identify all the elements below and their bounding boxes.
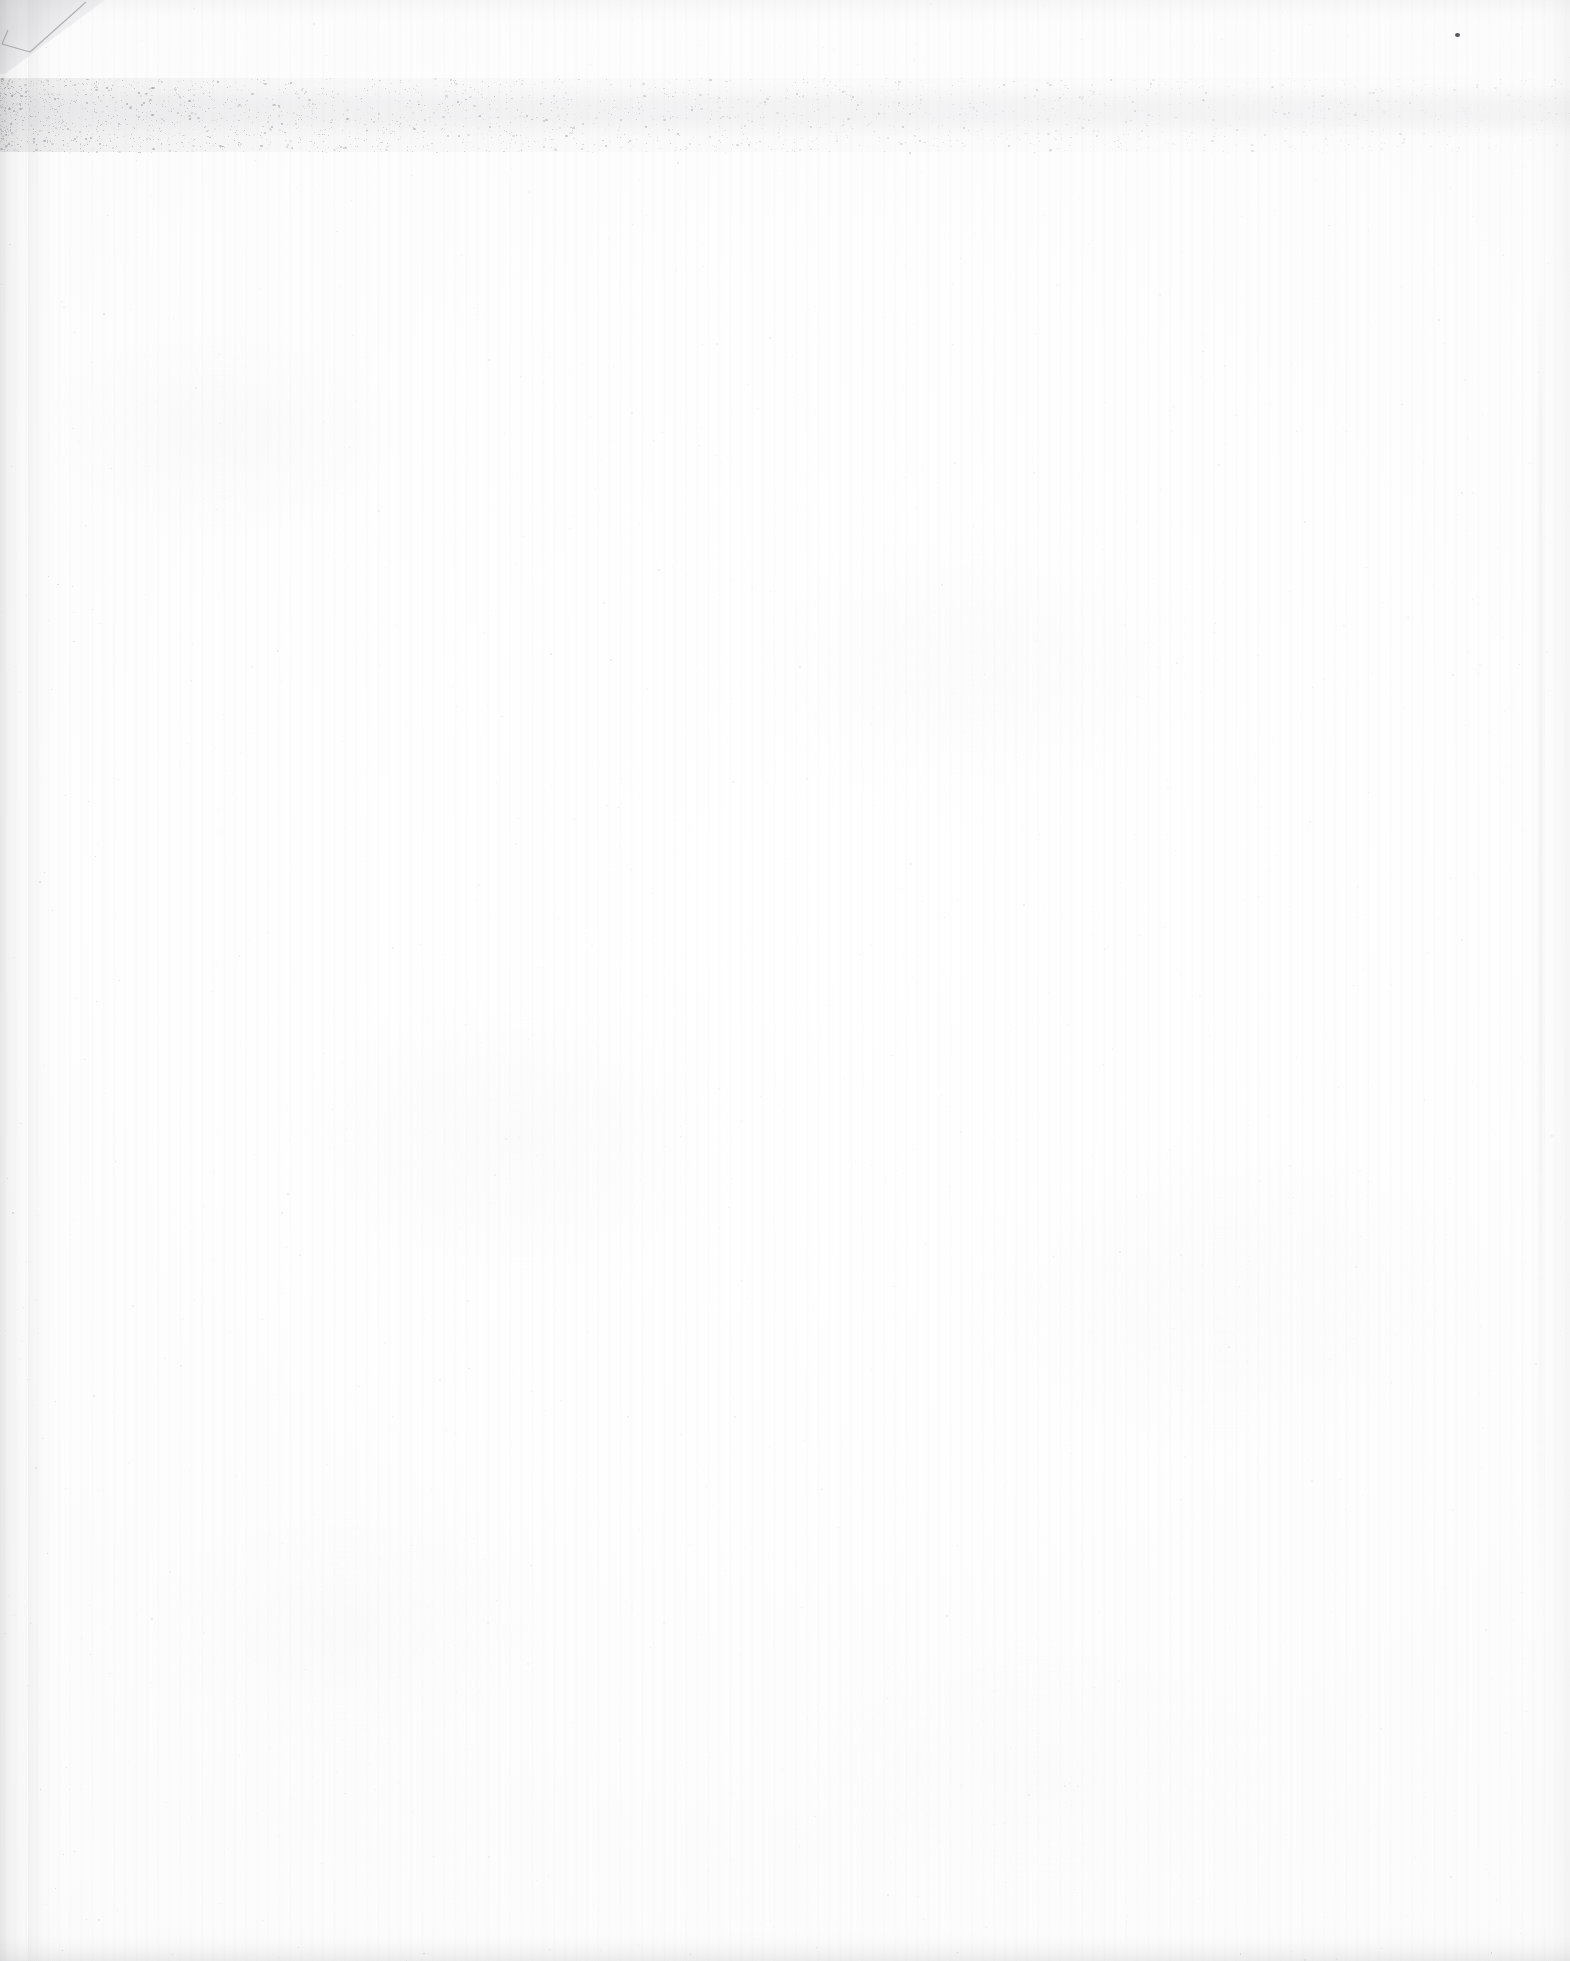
scanned-page (0, 0, 1570, 1961)
scanner-noise-band (0, 78, 1570, 152)
right-edge-shadow (1530, 0, 1570, 1961)
right-edge-crease (1539, 260, 1542, 1660)
left-edge-inner-shadow (28, 0, 58, 1961)
page-content-area (110, 180, 1470, 1880)
dark-speck (1455, 33, 1460, 37)
bottom-edge-specks (0, 1939, 1570, 1961)
top-edge-shadow (0, 0, 1570, 26)
